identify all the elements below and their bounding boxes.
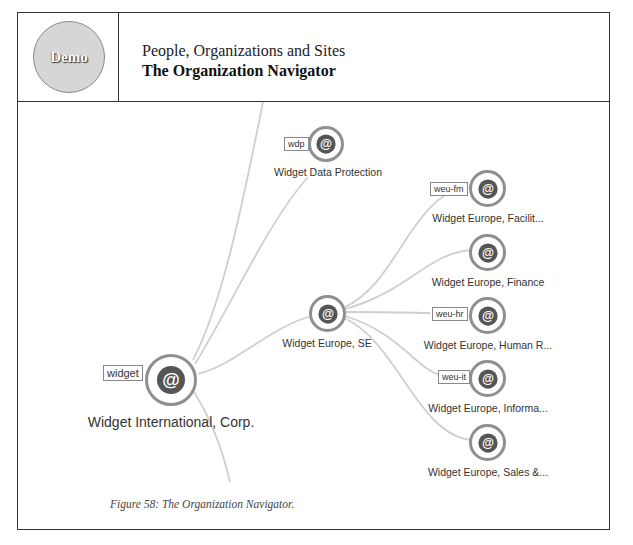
at-sign-icon[interactable]: @ (469, 297, 506, 334)
node-label: Widget Europe, SE (282, 337, 371, 349)
edge-root-up (193, 102, 263, 360)
page-subtitle: People, Organizations and Sites (142, 41, 345, 61)
badge-cell: Demo (18, 13, 119, 101)
at-sign-icon[interactable]: @ (469, 170, 506, 207)
node-tag: wdp (284, 137, 309, 151)
node-label: Widget Europe, Facilit... (432, 212, 543, 224)
at-sign-icon[interactable]: @ (469, 360, 506, 397)
edge-root-down (194, 392, 230, 482)
node-label: Widget Europe, Informa... (428, 402, 548, 414)
svg-text:@: @ (481, 246, 493, 260)
svg-text:@: @ (481, 309, 493, 323)
edge-root-wdp (195, 177, 308, 364)
svg-text:@: @ (481, 182, 493, 196)
demo-badge: Demo (33, 21, 105, 93)
node-tag: weu-hr (432, 307, 468, 321)
org-graph[interactable]: widget @ Widget International, Corp. wdp… (18, 102, 608, 529)
svg-text:@: @ (321, 307, 333, 321)
header-titles: People, Organizations and Sites The Orga… (142, 41, 345, 81)
page-title: The Organization Navigator (142, 61, 345, 81)
node-label: Widget Europe, Finance (432, 276, 545, 288)
at-sign-icon[interactable]: @ (469, 234, 506, 271)
node-label: Widget International, Corp. (88, 414, 255, 430)
node-label: Widget Europe, Human R... (424, 339, 552, 351)
demo-badge-label: Demo (50, 49, 88, 66)
at-sign-icon[interactable]: @ (308, 126, 344, 162)
at-sign-icon[interactable]: @ (309, 295, 346, 332)
at-sign-icon[interactable]: @ (469, 424, 506, 461)
node-tag: widget (103, 365, 143, 381)
node-tag: weu-it (438, 370, 470, 384)
svg-text:@: @ (320, 137, 332, 151)
svg-text:@: @ (481, 436, 493, 450)
node-tag: weu-fm (430, 182, 468, 196)
figure-frame: Demo People, Organizations and Sites The… (17, 12, 610, 530)
svg-text:@: @ (162, 370, 180, 390)
node-label: Widget Europe, Sales &... (428, 466, 548, 478)
svg-text:@: @ (481, 372, 493, 386)
at-sign-icon[interactable]: @ (145, 354, 197, 406)
figure-caption: Figure 58: The Organization Navigator. (110, 498, 294, 510)
header: Demo People, Organizations and Sites The… (18, 13, 609, 102)
edge-weu-fm (345, 185, 466, 307)
node-label: Widget Data Protection (274, 166, 382, 178)
edge-weu-hr (346, 312, 430, 313)
